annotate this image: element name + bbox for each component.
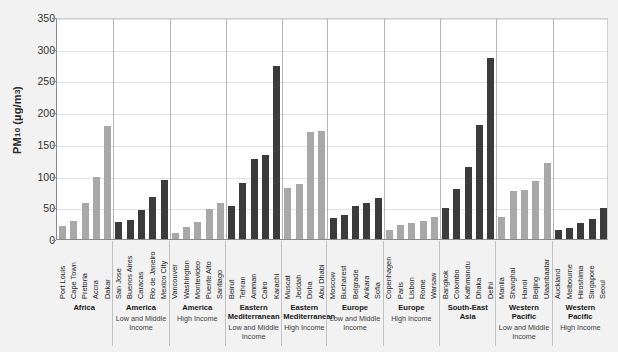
bar — [138, 210, 145, 239]
x-tick-label: Mexico City — [159, 241, 168, 299]
group-band: EuropeHigh Income — [383, 302, 439, 346]
x-tick-label: Montevideo — [193, 241, 202, 299]
group-band: AmericaHigh Income — [169, 302, 225, 346]
bar — [431, 217, 438, 239]
group-income-label: Low and Middle Income — [327, 315, 382, 332]
group-region-label: Eastern Mediterranean — [282, 303, 326, 321]
group-region-label: America — [170, 303, 225, 312]
x-tick-label: Singapore — [587, 241, 596, 299]
group-region-label: Europe — [384, 303, 439, 312]
group-region-label: Eastern Mediterranean — [226, 303, 281, 321]
x-tick-label: Warsaw — [429, 241, 438, 299]
y-tick-label: 100 — [15, 171, 55, 183]
x-group-separator — [112, 241, 113, 302]
bar — [363, 203, 370, 239]
x-tick-label: Melbourne — [565, 241, 574, 299]
bar — [498, 217, 505, 239]
x-tick-label: Muscat — [283, 241, 292, 299]
group-income-label: High Income — [282, 324, 326, 333]
x-tick-label: Cape Town — [69, 241, 78, 299]
bar — [352, 206, 359, 239]
x-tick-label: Manila — [497, 241, 506, 299]
y-tick-mark — [52, 50, 56, 51]
group-band: Eastern MediterraneanHigh Income — [281, 302, 326, 346]
x-tick-label: Bangkok — [441, 241, 450, 299]
plot-area — [56, 18, 608, 240]
bar — [70, 221, 77, 239]
bar — [555, 230, 562, 239]
x-tick-label: Vancouver — [170, 241, 179, 299]
x-tick-label: Belgrade — [351, 241, 360, 299]
group-band: Western PacificLow and Middle Income — [495, 302, 551, 346]
x-axis-labels: Port LouisCape TownPretoriaAccraDakarSan… — [56, 241, 608, 303]
x-tick-label: Doha — [305, 241, 314, 299]
bar — [453, 189, 460, 239]
bar — [375, 198, 382, 239]
x-group-separator — [552, 241, 553, 302]
x-tick-label: Puente Alto — [204, 241, 213, 299]
bar — [149, 197, 156, 239]
bar — [566, 228, 573, 239]
x-tick-label: Karachi — [272, 241, 281, 299]
bar — [273, 66, 280, 239]
bar — [600, 208, 607, 239]
y-tick-label: 300 — [15, 44, 55, 56]
group-income-label: Low and Middle Income — [496, 324, 551, 341]
bar — [589, 219, 596, 239]
group-income-label: High Income — [384, 315, 439, 324]
group-region-label: Africa — [56, 303, 112, 312]
bar — [115, 222, 122, 239]
x-group-separator — [439, 241, 440, 302]
y-tick-label: 350 — [15, 12, 55, 24]
x-tick-label: Santiago — [215, 241, 224, 299]
bar — [476, 125, 483, 239]
group-band: AmericaLow and Middle Income — [112, 302, 168, 346]
y-tick-label: 0 — [15, 234, 55, 246]
x-tick-label: Colombo — [452, 241, 461, 299]
x-tick-label: Ulaanbaatar — [542, 241, 551, 299]
bar — [217, 203, 224, 239]
x-tick-label: Dakar — [103, 241, 112, 299]
bar — [510, 191, 517, 239]
group-income-label: High Income — [170, 315, 225, 324]
x-tick-label: Paris — [396, 241, 405, 299]
bar — [127, 220, 134, 239]
bar — [206, 209, 213, 239]
bar — [408, 223, 415, 239]
group-region-label: Western Pacific — [553, 303, 608, 321]
bar — [544, 163, 551, 239]
group-income-label: Low and Middle Income — [226, 324, 281, 341]
bar — [93, 177, 100, 239]
bar — [487, 58, 494, 239]
bar — [341, 215, 348, 239]
x-tick-label: Sofia — [373, 241, 382, 299]
bar — [318, 131, 325, 239]
x-group-separator — [495, 241, 496, 302]
x-tick-label: Dhaka — [474, 241, 483, 299]
bar — [307, 132, 314, 239]
x-tick-label: Copenhagen — [384, 241, 393, 299]
x-tick-label: Hanoi — [520, 241, 529, 299]
bar — [251, 159, 258, 239]
x-tick-label: Pretoria — [80, 241, 89, 299]
bar — [172, 233, 179, 239]
bar — [82, 203, 89, 239]
x-tick-label: Seoul — [598, 241, 607, 299]
bar — [296, 184, 303, 239]
x-tick-label: Hiroshima — [576, 241, 585, 299]
x-tick-label: Port Louis — [58, 241, 67, 299]
x-group-separator — [326, 241, 327, 302]
bar — [577, 223, 584, 239]
group-region-label: America — [113, 303, 168, 312]
bar — [532, 181, 539, 239]
y-tick-label: 200 — [15, 107, 55, 119]
y-tick-mark — [52, 113, 56, 114]
x-tick-label: Abu Dhabi — [317, 241, 326, 299]
x-tick-label: Cairo — [260, 241, 269, 299]
chart-figure: PM10 (µg/m3) 050100150200250300350 Port … — [0, 0, 618, 352]
x-tick-label: Rio de Janeiro — [148, 241, 157, 299]
group-band: EuropeLow and Middle Income — [326, 302, 382, 346]
bar — [465, 167, 472, 239]
bar — [442, 208, 449, 239]
bar — [262, 155, 269, 239]
